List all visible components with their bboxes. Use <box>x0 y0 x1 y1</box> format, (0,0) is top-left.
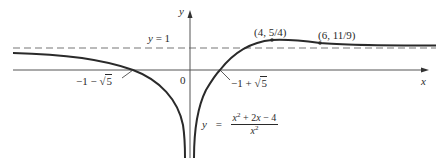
origin-label: 0 <box>180 75 186 86</box>
equation-label: y = x2 + 2x − 4 x2 <box>202 113 278 136</box>
asymptote-label-rhs: 1 <box>165 32 171 44</box>
curve-left-branch <box>13 53 185 158</box>
inflection-point-label: (6, 11/9) <box>318 30 355 41</box>
right-intercept-prefix: −1 + <box>231 77 254 89</box>
y-axis-label: y <box>179 6 184 17</box>
max-point-marker <box>270 38 274 42</box>
curve-right-branch <box>194 40 436 158</box>
max-point-label: (4, 5/4) <box>254 27 286 38</box>
left-intercept-prefix: −1 − <box>76 75 99 87</box>
x-axis-arrow-icon <box>421 68 429 73</box>
den-exp: 2 <box>255 124 259 132</box>
asymptote-label: y = 1 <box>148 33 170 44</box>
inflection-point-marker <box>318 41 322 45</box>
equation-lhs: y <box>202 118 207 130</box>
equation-fraction: x2 + 2x − 4 x2 <box>231 113 279 136</box>
equation-eq: = <box>216 118 222 130</box>
left-intercept-leader <box>122 70 133 78</box>
right-intercept-radicand: 5 <box>260 76 267 89</box>
asymptote-label-lhs: y <box>148 32 153 44</box>
left-intercept-label: −1 − √5 <box>76 76 112 87</box>
num-rest: + 2 <box>241 112 257 123</box>
function-graph: y x 0 y = 1 −1 − √5 −1 + √5 (4, 5/4) (6,… <box>0 0 436 158</box>
right-intercept-leader <box>220 70 230 80</box>
left-intercept-radicand: 5 <box>105 74 112 87</box>
right-intercept-label: −1 + √5 <box>231 78 267 89</box>
x-axis-label: x <box>421 76 426 87</box>
num-tail: − 4 <box>261 112 277 123</box>
asymptote-label-eq: = <box>156 32 162 44</box>
y-axis-arrow-icon <box>188 10 193 18</box>
equation-denominator: x2 <box>250 125 258 136</box>
